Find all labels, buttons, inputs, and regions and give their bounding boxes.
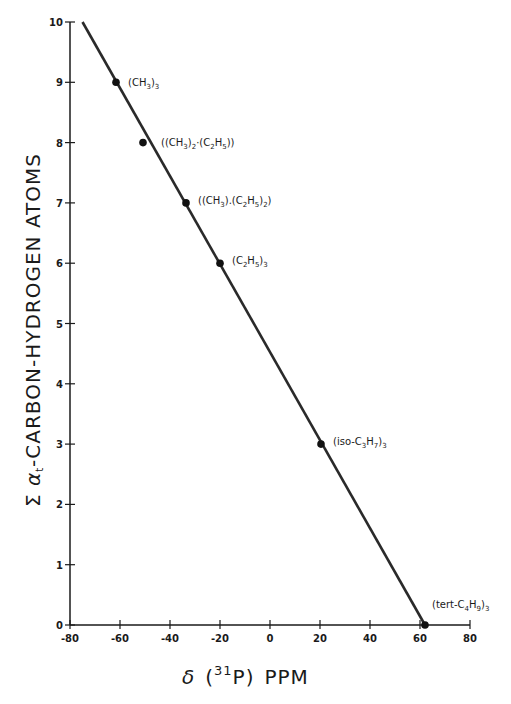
y-tick-label: 5 <box>56 319 63 330</box>
x-tick-label: -20 <box>211 633 229 644</box>
label-triisopropyl: (iso-C3H7)3 <box>333 436 387 450</box>
label-dimethylethyl: ((CH3)2·(C2H5)) <box>161 137 235 151</box>
point-labels: (CH3)3 ((CH3)2·(C2H5)) ((CH3).(C2H5)2) (… <box>128 77 489 613</box>
y-tick-label: 7 <box>56 198 63 209</box>
data-point <box>182 199 190 207</box>
x-tick-label: -60 <box>111 633 129 644</box>
y-tick-label: 4 <box>56 379 63 390</box>
data-point <box>421 621 429 629</box>
data-point <box>139 139 147 147</box>
axes <box>70 22 470 625</box>
y-tick-label: 1 <box>56 560 63 571</box>
y-tick-label: 3 <box>56 439 63 450</box>
y-axis-ticks: 012345678910 <box>49 17 75 631</box>
x-tick-label: -40 <box>161 633 179 644</box>
x-tick-label: 40 <box>363 633 377 644</box>
x-tick-label: 0 <box>267 633 274 644</box>
data-point <box>317 440 325 448</box>
label-methyldiethyl: ((CH3).(C2H5)2) <box>198 195 272 209</box>
y-tick-label: 6 <box>56 258 63 269</box>
y-axis-title: Σ αt-CARBON-HYDROGEN ATOMS <box>21 153 45 507</box>
x-axis-title: δ(31P)PPM <box>182 663 309 689</box>
label-triethyl: (C2H5)3 <box>232 255 268 269</box>
label-trimethyl: (CH3)3 <box>128 77 159 91</box>
label-tritertbutyl: (tert-C4H9)3 <box>432 599 489 613</box>
y-tick-label: 10 <box>49 17 63 28</box>
y-tick-label: 0 <box>56 620 63 631</box>
x-tick-label: 60 <box>413 633 427 644</box>
x-tick-label: 80 <box>463 633 477 644</box>
data-point <box>216 259 224 267</box>
y-tick-label: 8 <box>56 138 63 149</box>
x-tick-label: -80 <box>61 633 79 644</box>
y-tick-label: 2 <box>56 499 63 510</box>
data-point <box>112 79 120 87</box>
x-tick-label: 20 <box>313 633 327 644</box>
x-axis-ticks: -80-60-40-20020406080 <box>61 620 477 644</box>
chart-canvas: -80-60-40-20020406080 012345678910 (CH3)… <box>0 0 511 704</box>
y-tick-label: 9 <box>56 77 63 88</box>
regression-line <box>83 22 426 625</box>
